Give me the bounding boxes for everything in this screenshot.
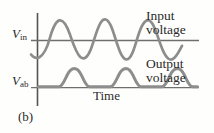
half-wave-rectifier-waveform-figure: Vin Vab Input voltage Output voltage Tim… [0, 0, 214, 133]
output-voltage-legend-line1: Output [146, 57, 212, 71]
output-voltage-legend-label: Output voltage [146, 57, 212, 85]
output-voltage-symbol: Vab [12, 74, 29, 89]
input-voltage-symbol-subscript: in [20, 32, 27, 42]
input-voltage-legend-label: Input voltage [146, 9, 212, 37]
output-voltage-symbol-base: V [12, 73, 20, 88]
panel-label: (b) [18, 110, 33, 123]
output-voltage-legend-line2: voltage [146, 71, 212, 85]
time-axis-label: Time [93, 89, 120, 102]
output-voltage-symbol-subscript: ab [20, 79, 29, 89]
input-voltage-legend-line1: Input [146, 9, 212, 23]
input-voltage-legend-line2: voltage [146, 23, 212, 37]
input-voltage-symbol-base: V [12, 26, 20, 41]
input-voltage-symbol: Vin [12, 27, 27, 42]
